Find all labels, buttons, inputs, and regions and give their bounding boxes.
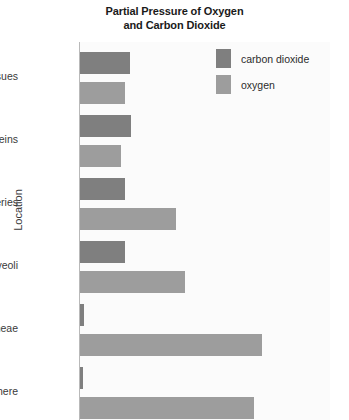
bar-arteries-oxygen (80, 208, 176, 230)
y-axis-title: Location (0, 0, 36, 420)
legend-label-oxygen: oxygen (241, 79, 275, 91)
chart-figure: Partial Pressure of Oxygen and Carbon Di… (0, 0, 349, 420)
bar-veins-oxygen (80, 145, 121, 167)
chart-title-line-2: and Carbon Dioxide (0, 18, 349, 32)
y-axis-label-veins: veins (0, 133, 18, 145)
legend-swatch-oxygen (216, 75, 231, 94)
legend-item-oxygen: oxygen (216, 73, 336, 96)
y-axis-label-arteries: arteries (0, 196, 18, 208)
bar-veins-carbon-dioxide (80, 115, 131, 137)
chart-title: Partial Pressure of Oxygen and Carbon Di… (0, 4, 349, 32)
y-axis-label-tissues: tissues (0, 70, 18, 82)
chart-legend: carbon dioxide oxygen (216, 47, 336, 99)
legend-item-carbon-dioxide: carbon dioxide (216, 47, 336, 70)
y-axis-label-alveoli: alveoli (0, 259, 18, 271)
y-axis-label-tracheae: tracheae (0, 322, 18, 334)
bar-tissues-carbon-dioxide (80, 52, 130, 74)
chart-title-line-1: Partial Pressure of Oxygen (0, 4, 349, 18)
bar-arteries-carbon-dioxide (80, 178, 125, 200)
y-axis-label-atmosphere: atmosphere (0, 385, 18, 397)
bar-tracheae-carbon-dioxide (80, 304, 84, 326)
bar-alveoli-oxygen (80, 271, 185, 293)
legend-label-carbon-dioxide: carbon dioxide (241, 53, 309, 65)
bar-alveoli-carbon-dioxide (80, 241, 125, 263)
bar-tissues-oxygen (80, 82, 125, 104)
legend-swatch-carbon-dioxide (216, 49, 231, 68)
bar-atmosphere-oxygen (80, 397, 254, 419)
bar-atmosphere-carbon-dioxide (80, 367, 83, 389)
bar-tracheae-oxygen (80, 334, 262, 356)
